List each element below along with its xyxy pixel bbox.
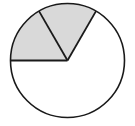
pie-chart-canvas	[0, 0, 135, 126]
pie-diagram	[0, 0, 135, 126]
